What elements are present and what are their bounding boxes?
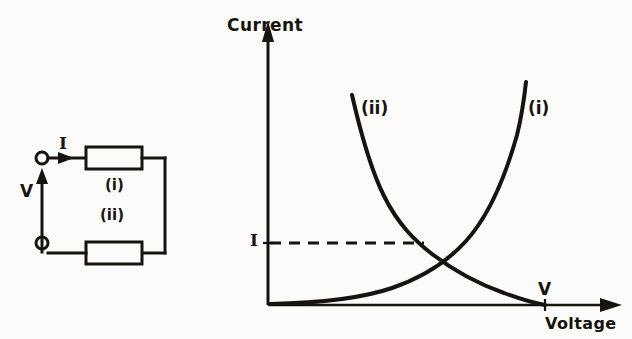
y-axis-tick-label-I: I [250, 232, 258, 249]
circuit-branch-label-i: (i) [105, 178, 124, 193]
x-axis-arrow-icon [600, 298, 622, 312]
x-axis-title: Voltage [545, 316, 617, 332]
figure-canvas: Current Voltage I V (i) (ii) (i) (ii) I … [0, 0, 632, 339]
circuit-voltage-label: V [20, 183, 33, 200]
curve-label-ii: (ii) [361, 100, 388, 117]
curve-i-path [270, 82, 526, 304]
x-axis-tick-label-V: V [538, 281, 551, 298]
circuit-current-label: I [59, 135, 67, 152]
y-axis-title: Current [227, 17, 303, 34]
circuit-branch-label-ii: (ii) [100, 208, 124, 223]
curve-label-i: (i) [528, 100, 549, 117]
curve-ii-path [352, 95, 545, 305]
